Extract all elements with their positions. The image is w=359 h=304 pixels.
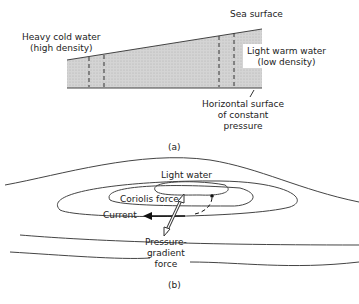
contour-low2 [10,252,150,258]
contour-low3 [190,262,359,266]
label-pressure-gradient-force: Pressure- gradient force [145,237,187,270]
label-sea-surface: Sea surface [230,9,283,20]
label-coriolis-force: Coriolis force [120,194,179,205]
caption-b: (b) [168,280,181,291]
label-light-warm-water: Light warm water (low density) [247,46,326,68]
contour-low1 [20,235,359,245]
label-heavy-cold-water: Heavy cold water (high density) [22,32,101,54]
caption-a: (a) [168,142,181,153]
pointer-arrow [250,90,254,97]
label-light-water: Light water [161,170,212,181]
label-current: Current [103,210,137,221]
label-horizontal-surface: Horizontal surface of constant pressure [202,99,284,132]
